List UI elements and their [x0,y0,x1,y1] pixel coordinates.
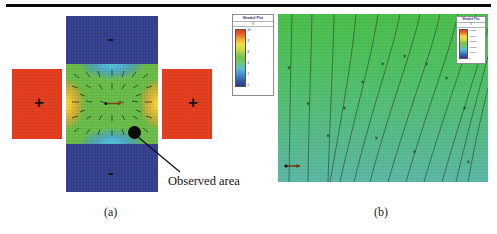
caption-panel-b: (b) [374,205,388,220]
legend-b-ticks: .00005 .00004 .00003 .00002 .00001 0 [468,29,477,59]
streamline-direction-arrows [287,54,470,164]
observed-area-label: Observed area [168,174,240,189]
scale-marker-arrow [284,164,300,168]
legend-b-tick: 0 [470,57,477,59]
legend-a-tick: 4 [248,62,251,65]
legend-b-body: .00005 .00004 .00003 .00002 .00001 0 [457,28,485,61]
legend-panel-b: Shaded Plot V .00005 .00004 .00003 .0000… [456,16,486,64]
legend-a-tick: 6 [248,51,251,54]
panel-a-shaded-plot: + + - - Observed area [8,14,220,194]
legend-b-tick: .00001 [470,51,477,53]
legend-a-tick: 8 [248,40,251,43]
panel-b-streamline-plot: Shaded Plot V .00005 .00004 .00003 .0000… [278,14,488,182]
legend-a-colorramp [235,29,246,87]
legend-panel-a: Shaded Plot V 10 8 6 4 2 0 [232,14,274,96]
legend-b-tick: .00004 [470,35,477,37]
legend-a-ticks: 10 8 6 4 2 0 [246,29,252,87]
legend-b-tick: .00003 [470,40,477,42]
observed-area-leader-line [8,14,220,194]
legend-b-colorramp [459,29,468,59]
legend-b-tick: .00005 [470,29,477,31]
legend-a-body: 10 8 6 4 2 0 [233,27,273,88]
legend-a-tick: 10 [248,29,251,32]
legend-b-tick: .00002 [470,46,477,48]
legend-a-tick: 0 [248,84,251,87]
legend-a-tick: 2 [248,73,251,76]
figure-page: + + - - Observed area Shaded Plot V 10 8… [0,0,497,234]
caption-panel-a: (a) [104,205,117,220]
top-horizontal-rule [6,4,491,7]
legend-a-title: Shaded Plot [233,15,273,22]
cross-shaped-domain: + + - - Observed area [8,14,220,194]
observed-area-marker-dot [128,126,141,139]
